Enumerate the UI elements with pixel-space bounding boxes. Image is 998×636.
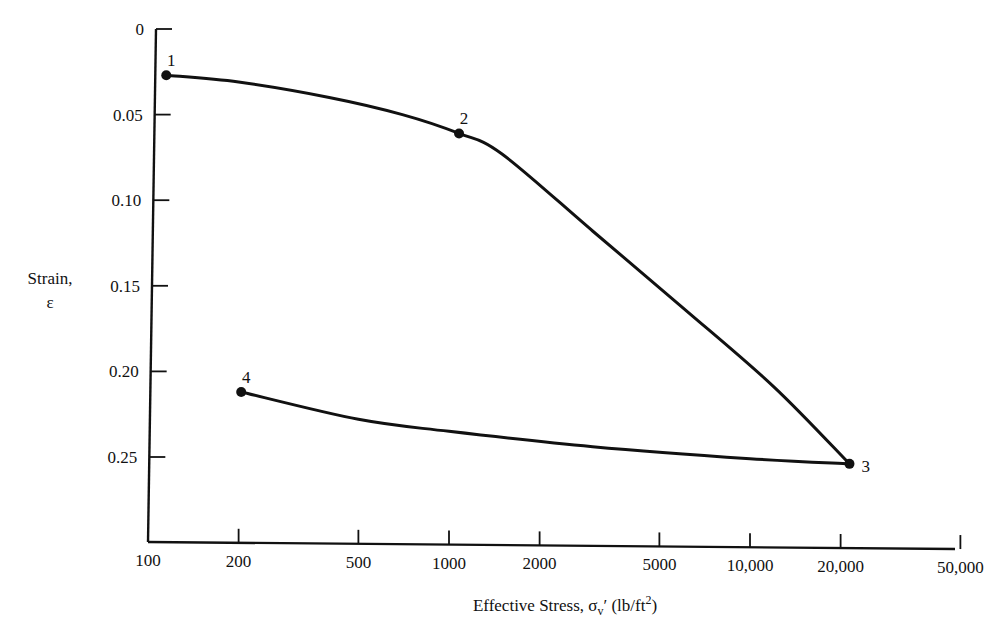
x-tick-label: 2000 <box>523 554 557 573</box>
y-tick-label: 0.15 <box>110 277 140 296</box>
x-tick-label: 20,000 <box>817 557 864 576</box>
x-axis-line <box>148 542 955 549</box>
point-marker-4 <box>236 387 246 397</box>
y-tick-label: 0.25 <box>108 448 138 467</box>
point-marker-2 <box>454 128 464 138</box>
x-axis: 10020050010002000500010,00020,00050,000 <box>135 529 984 577</box>
x-tick-label: 200 <box>226 552 252 571</box>
y-axis-title-line1: Strain, <box>28 269 73 288</box>
x-tick-label: 100 <box>135 551 161 570</box>
y-tick-label: 0.05 <box>113 106 143 125</box>
y-tick-label: 0.20 <box>109 362 139 381</box>
x-tick-label: 10,000 <box>727 556 774 575</box>
point-label-2: 2 <box>460 109 469 128</box>
unloading-curve <box>241 392 849 464</box>
data-series <box>166 75 849 464</box>
x-axis-title-main: Effective Stress, σ <box>473 596 598 615</box>
point-label-4: 4 <box>242 368 251 387</box>
data-points: 1234 <box>161 51 870 476</box>
strain-vs-effective-stress-chart: 00.050.100.150.200.25 100200500100020005… <box>0 0 998 636</box>
x-axis-title-close: ) <box>651 596 657 615</box>
point-label-1: 1 <box>167 51 176 70</box>
x-tick-label: 50,000 <box>937 558 984 577</box>
point-marker-1 <box>161 70 171 80</box>
x-tick-label: 500 <box>346 553 372 572</box>
x-tick-label: 5000 <box>642 555 676 574</box>
y-tick-label: 0.10 <box>112 191 142 210</box>
loading-curve <box>166 75 849 464</box>
x-axis-title-units: ′ (lb/ft <box>603 596 645 615</box>
x-tick-label: 1000 <box>432 554 466 573</box>
y-tick-label: 0 <box>136 20 145 39</box>
point-label-3: 3 <box>861 457 870 476</box>
x-axis-title: Effective Stress, σv′ (lb/ft2) <box>473 593 657 618</box>
y-axis: 00.050.100.150.200.25 <box>108 20 172 542</box>
point-marker-3 <box>844 459 854 469</box>
y-axis-title-line2: ε <box>46 293 53 312</box>
